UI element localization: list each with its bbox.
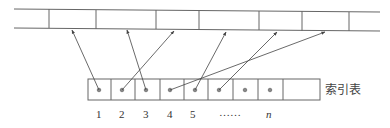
pointer-arrows: [72, 30, 325, 90]
index-table-label: 索引表: [325, 83, 361, 97]
index-label-ellipsis: ……: [219, 106, 241, 118]
index-table-diagram: 索引表 1 2 3 4 5 …… n: [0, 0, 390, 128]
main-storage-strip: [14, 9, 380, 31]
index-label-5: 5: [190, 108, 196, 120]
index-label-2: 2: [119, 108, 125, 120]
index-label-1: 1: [96, 108, 102, 120]
index-label-n: n: [266, 108, 272, 120]
index-label-3: 3: [143, 108, 149, 120]
index-label-4: 4: [167, 108, 173, 120]
